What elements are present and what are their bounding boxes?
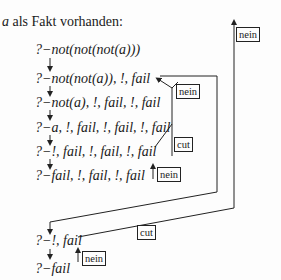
goal-7: ?−!, fail (35, 233, 82, 249)
label-cut-1: cut (174, 137, 193, 152)
goal-2: ?−not(not(a)), !, fail (35, 71, 150, 87)
heading: a als Fakt vorhanden: (2, 14, 123, 30)
label-nein-2: nein (157, 167, 181, 182)
goal-1: ?−not(not(not(a))) (35, 42, 140, 58)
prolog-derivation-diagram: a als Fakt vorhanden: ?−not(not(not(a)))… (0, 0, 281, 280)
heading-text: als Fakt vorhanden: (9, 14, 123, 29)
goal-6: ?−fail, !, fail, !, fail (35, 168, 145, 184)
goal-8: ?−fail (35, 261, 70, 277)
label-nein-1: nein (176, 84, 200, 99)
label-nein-outer: nein (236, 27, 260, 42)
label-cut-2: cut (137, 225, 156, 240)
goal-4: ?−a, !, fail, !, fail, !, fail (35, 120, 170, 136)
goal-5: ?−!, fail, !, fail, !, fail (35, 144, 156, 160)
label-nein-3: nein (82, 251, 106, 266)
goal-3: ?−not(a), !, fail, !, fail (35, 95, 160, 111)
heading-variable: a (2, 14, 9, 29)
